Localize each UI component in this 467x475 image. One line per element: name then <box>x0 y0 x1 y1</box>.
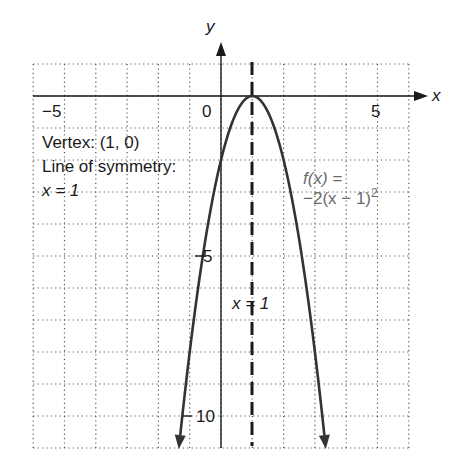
x-axis-arrow-icon <box>414 91 428 101</box>
y-axis-arrow-icon <box>216 42 226 56</box>
x-tick-label-neg5: −5 <box>42 102 61 121</box>
parabola-chart: y x −5 0 5 5 10 Vertex: (1, 0) Line of s… <box>0 0 467 475</box>
x-tick-label-5: 5 <box>371 102 380 121</box>
x-axis-label: x <box>431 86 441 105</box>
y-tick-label-neg10: 10 <box>196 407 215 426</box>
y-axis-label: y <box>205 17 216 36</box>
function-label-line1: f(x) = <box>303 169 342 188</box>
symmetry-annotation-eq: x = 1 <box>41 181 79 200</box>
curve-arrow-right-icon <box>319 435 330 450</box>
symmetry-annotation-title: Line of symmetry: <box>42 157 176 176</box>
curve-arrow-left-icon <box>175 435 186 450</box>
y-tick-label-neg5: 5 <box>203 247 212 266</box>
function-label-line2: −2(x − 1)2 <box>303 186 378 208</box>
dashed-line-label: x = 1 <box>231 294 269 313</box>
x-tick-label-0: 0 <box>202 102 211 121</box>
vertex-annotation: Vertex: (1, 0) <box>42 133 139 152</box>
